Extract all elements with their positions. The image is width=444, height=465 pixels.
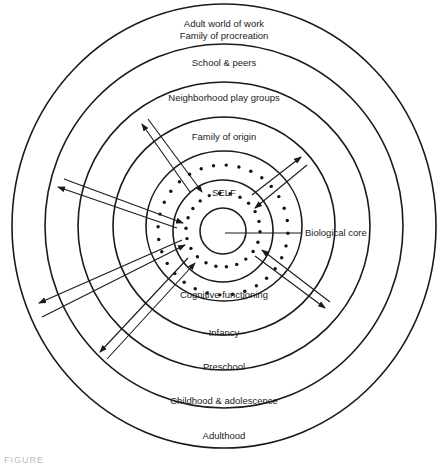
outer-dot-ring-dot xyxy=(157,238,160,241)
inner-dot-ring-dot xyxy=(256,241,259,244)
outer-dot-ring-dot xyxy=(286,219,289,222)
inner-dot-ring-dot xyxy=(208,194,211,197)
outer-dot-ring-dot xyxy=(212,164,215,167)
upper-left-in-arrow xyxy=(148,119,202,192)
lower-right-out-arrow xyxy=(255,256,325,308)
label-preschool: Preschool xyxy=(203,361,245,372)
inner-dot-ring-dot xyxy=(247,202,250,205)
outer-dot-ring-dot xyxy=(280,256,283,259)
outer-dot-ring-dot xyxy=(160,250,163,253)
label-family-of-procreation: Family of procreation xyxy=(180,30,269,41)
inner-dot-ring-dot xyxy=(191,207,194,210)
outer-dot-ring-dot xyxy=(255,284,258,287)
inner-dot-ring-dot xyxy=(225,265,228,268)
lower-left-out-arrow xyxy=(100,258,188,352)
outer-dot-ring-dot xyxy=(200,167,203,170)
interaction-arrows xyxy=(39,119,330,359)
inner-dot-ring-dot xyxy=(251,250,254,253)
outer-dot-ring-dot xyxy=(277,195,280,198)
outer-dot-ring-dot xyxy=(178,180,181,183)
outer-dot-ring-dot xyxy=(169,190,172,193)
label-adult-world-of-work: Adult world of work xyxy=(184,18,265,29)
label-school-and-peers: School & peers xyxy=(192,57,257,68)
outer-dot-ring-dot xyxy=(249,170,252,173)
inner-dot-ring-dot xyxy=(186,216,189,219)
adulthood-ring xyxy=(12,4,436,448)
label-childhood-and-adolescence: Childhood & adolescence xyxy=(170,395,278,406)
outer-dot-ring-dot xyxy=(237,165,240,168)
outer-dot-ring-dot xyxy=(183,281,186,284)
upper-left-out-arrow xyxy=(142,124,190,192)
label-neighborhood-play-groups: Neighborhood play groups xyxy=(168,92,280,103)
outer-dot-ring-dot xyxy=(163,201,166,204)
inner-dot-ring-dot xyxy=(184,227,187,230)
outer-dot-ring-dot xyxy=(225,163,228,166)
outer-dot-ring-dot xyxy=(265,277,268,280)
lower-right-in-arrow xyxy=(262,250,330,302)
outer-dot-ring-dot xyxy=(284,244,287,247)
inner-dot-ring-dot xyxy=(244,257,247,260)
label-self: SELF xyxy=(212,187,236,198)
label-infancy: Infancy xyxy=(209,327,240,338)
upper-labels: Adult world of work Family of procreatio… xyxy=(168,18,280,198)
concentric-rings xyxy=(12,4,436,448)
inner-dot-ring-dot xyxy=(214,265,217,268)
inner-dot-ring-dot xyxy=(196,255,199,258)
biological-core-ring xyxy=(200,208,246,254)
inner-dot-ring-dot xyxy=(199,199,202,202)
dotted-rings xyxy=(156,163,289,296)
inner-dot-ring-dot xyxy=(235,263,238,266)
inner-dot-ring-dot xyxy=(189,247,192,250)
label-cognitive-functioning: Cognitive functioning xyxy=(180,289,268,300)
inner-dot-ring-dot xyxy=(204,261,207,264)
label-adulthood: Adulthood xyxy=(203,430,246,441)
left-lower-out-arrow xyxy=(39,240,182,303)
left-lower-in-arrow xyxy=(42,245,185,317)
label-family-of-origin: Family of origin xyxy=(192,131,256,142)
inner-dot-ring-dot xyxy=(253,210,256,213)
label-biological-core: Biological core xyxy=(305,227,367,238)
inner-dot-ring-dot xyxy=(238,196,241,199)
outer-dot-ring-dot xyxy=(260,176,263,179)
outer-dot-ring-dot xyxy=(270,185,273,188)
outer-dot-ring-dot xyxy=(156,225,159,228)
figure-caption-clipped: FIGURE xyxy=(4,455,44,465)
inner-dot-ring-dot xyxy=(257,220,260,223)
outer-dot-ring-dot xyxy=(166,262,169,265)
inner-dot-ring-dot xyxy=(185,237,188,240)
outer-dot-ring-dot xyxy=(283,207,286,210)
